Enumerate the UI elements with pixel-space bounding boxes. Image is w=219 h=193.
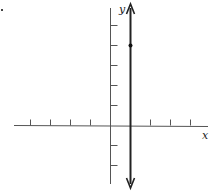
vertical-line-x-equals-1 [127, 4, 135, 188]
y-axis-label: y [118, 3, 126, 16]
plotted-points [129, 44, 133, 48]
x-axis-label: x [202, 129, 209, 142]
coordinate-plane: x y [0, 0, 219, 193]
corner-mark [1, 9, 3, 11]
data-point [129, 44, 133, 48]
y-axis-ticks [111, 26, 118, 166]
